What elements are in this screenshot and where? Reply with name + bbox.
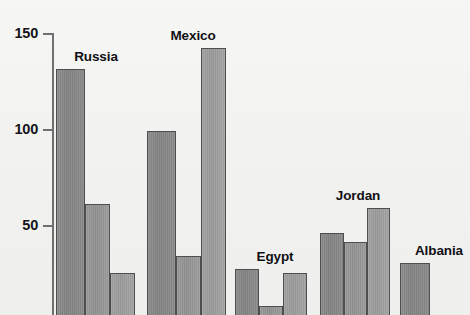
bar-jordan-1 [320, 233, 344, 315]
bar-russia-2 [85, 204, 110, 315]
y-axis-tick-150 [43, 33, 52, 35]
y-axis-tick-label-100: 100 [0, 121, 38, 137]
bar-russia-1 [56, 69, 85, 315]
group-label-egypt: Egypt [256, 249, 293, 264]
bar-jordan-3 [367, 208, 390, 315]
bar-chart: 15010050 RussiaMexicoEgyptJordanAlbania [0, 0, 470, 315]
y-axis-tick-label-150: 150 [0, 25, 38, 41]
y-axis-tick-50 [43, 225, 52, 227]
y-axis-line [52, 33, 54, 315]
group-label-mexico: Mexico [170, 28, 215, 43]
bar-egypt-1 [235, 269, 259, 315]
y-axis-tick-100 [43, 129, 52, 131]
bar-egypt-3 [283, 273, 307, 315]
bar-egypt-2 [259, 306, 283, 315]
bar-jordan-2 [344, 242, 367, 315]
group-label-russia: Russia [74, 49, 118, 64]
group-label-jordan: Jordan [336, 188, 380, 203]
bar-mexico-1 [147, 131, 176, 315]
bar-mexico-3 [201, 48, 226, 315]
bar-russia-3 [110, 273, 135, 315]
y-axis-tick-label-50: 50 [0, 217, 38, 233]
bar-mexico-2 [176, 256, 201, 315]
group-label-albania: Albania [415, 243, 463, 258]
bar-albania-1 [400, 263, 430, 315]
